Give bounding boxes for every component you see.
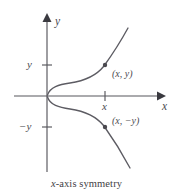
graph-canvas <box>0 0 173 196</box>
x-tick-label: x <box>102 101 107 112</box>
figure-caption: x-axis symmetry <box>0 178 173 189</box>
lower-point-label: (x, −y) <box>112 116 139 126</box>
lower-point-dot <box>103 125 107 129</box>
figure-container: y x y −y x (x, y) (x, −y) x-axis symmetr… <box>0 0 173 196</box>
upper-point-label: (x, y) <box>112 69 133 79</box>
y-negative-tick-label: −y <box>19 121 31 132</box>
upper-point-dot <box>103 63 107 67</box>
y-axis-label: y <box>55 16 60 28</box>
y-axis-arrowhead <box>43 13 52 22</box>
y-positive-tick-label: y <box>27 59 32 70</box>
x-axis-label: x <box>162 101 167 113</box>
curve-lower-branch <box>48 97 131 168</box>
caption-text: -axis symmetry <box>56 178 122 189</box>
curve-upper-branch <box>48 28 129 95</box>
